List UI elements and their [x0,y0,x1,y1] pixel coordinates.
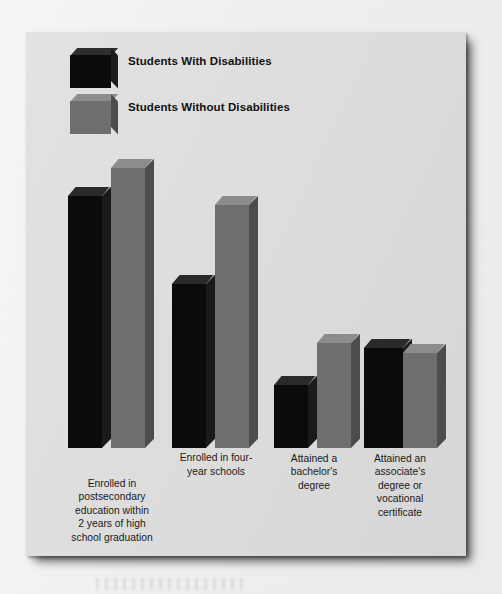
category-label-2-line-2: year schools [159,465,273,478]
category-label-1-line-1: Enrolled in [54,477,170,490]
category-label-1-line-2: postsecondary [54,490,170,503]
bar-with-disabilities-2 [172,284,206,448]
category-label-1-line-5: school graduation [54,531,170,544]
bar-without-disabilities-4 [403,353,437,448]
category-label-2-line-1: Enrolled in four- [159,451,273,464]
category-label-1-line-3: education within [54,504,170,517]
scan-smudge-artifact [96,578,246,590]
bar-group-4: Attained an associate's degree or vocati… [346,32,456,556]
category-label-1-line-4: 2 years of high [54,517,170,530]
category-label-4-line-2: associate's [346,465,454,478]
bar-with-disabilities-3 [274,385,308,448]
bar-group-1: Enrolled in postsecondary education with… [56,32,164,556]
bar-with-disabilities-4 [364,348,403,448]
bar-without-disabilities-2 [215,205,249,448]
category-label-4-line-3: degree or [346,479,454,492]
category-label-4-line-4: vocational [346,492,454,505]
category-label-4-line-5: certificate [346,506,454,519]
category-label-4: Attained an associate's degree or vocati… [346,452,454,519]
bar-with-disabilities-1 [68,196,102,448]
plot-area: Enrolled in postsecondary education with… [26,32,466,556]
bar-group-2: Enrolled in four- year schools [160,32,268,556]
category-label-4-line-1: Attained an [346,452,454,465]
chart-panel: Students With Disabilities Students With… [26,32,466,556]
bar-without-disabilities-1 [111,168,145,448]
category-label-2: Enrolled in four- year schools [159,451,273,478]
scanned-page-background: Students With Disabilities Students With… [0,0,502,594]
category-label-1: Enrolled in postsecondary education with… [54,477,170,544]
